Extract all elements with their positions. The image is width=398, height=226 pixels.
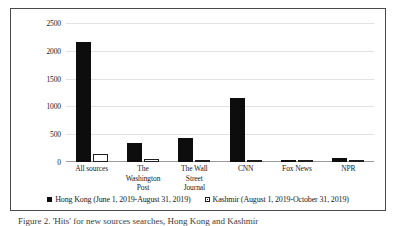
x-axis-label: NPR (323, 164, 374, 193)
bar-hong-kong[interactable] (127, 143, 142, 162)
bar-group (323, 23, 374, 162)
bar-hong-kong[interactable] (332, 158, 347, 162)
bars-layer (66, 23, 374, 162)
x-axis-label-line: Washington (117, 174, 168, 184)
y-axis-tick-label: 2500 (46, 19, 61, 28)
bar-kashmir[interactable] (298, 160, 313, 162)
bar-hong-kong[interactable] (281, 160, 296, 162)
y-axis-tick-label: 1500 (46, 74, 61, 83)
figure-caption: Figure 2. 'Hits' for new sources searche… (18, 216, 388, 225)
x-axis-label: CNN (220, 164, 271, 193)
legend-swatch-icon (47, 197, 52, 202)
x-axis-label: All sources (66, 164, 117, 193)
x-axis-label: TheWashingtonPost (117, 164, 168, 193)
x-axis-label-line: Street (169, 174, 220, 184)
legend-label: Kashmir (August 1, 2019-October 31, 2019… (213, 195, 349, 204)
x-axis-label-line: Fox News (271, 164, 322, 174)
x-axis-label-line: Journal (169, 183, 220, 193)
figure-frame: Number of 'hits' 05001000150020002500 Al… (10, 8, 386, 211)
chart-legend: Hong Kong (June 1, 2019-August 31, 2019)… (11, 195, 385, 204)
legend-swatch-icon (205, 197, 210, 202)
x-axis-label-line: NPR (323, 164, 374, 174)
x-axis-category-labels: All sourcesTheWashingtonPostThe WallStre… (66, 164, 374, 193)
bar-hong-kong[interactable] (230, 98, 245, 162)
bar-kashmir[interactable] (247, 160, 262, 163)
y-axis-tick-label: 500 (50, 130, 61, 139)
bar-hong-kong[interactable] (76, 42, 91, 162)
legend-item-kashmir[interactable]: Kashmir (August 1, 2019-October 31, 2019… (205, 195, 349, 204)
x-axis-label-line: CNN (220, 164, 271, 174)
legend-label: Hong Kong (June 1, 2019-August 31, 2019) (55, 195, 190, 204)
x-axis-label-line: The Wall (169, 164, 220, 174)
bar-group (117, 23, 168, 162)
y-axis-title: Number of 'hits' (25, 0, 34, 35)
x-axis-label: Fox News (271, 164, 322, 193)
y-axis-tick-label: 2000 (46, 46, 61, 55)
y-axis-tick-label: 0 (57, 158, 61, 167)
bar-group (169, 23, 220, 162)
bar-kashmir[interactable] (144, 159, 159, 162)
x-axis-label: The WallStreetJournal (169, 164, 220, 193)
bar-kashmir[interactable] (195, 160, 210, 162)
bar-group (66, 23, 117, 162)
bar-kashmir[interactable] (349, 160, 364, 162)
x-axis-label-line: The (117, 164, 168, 174)
plot-area: 05001000150020002500 (66, 23, 374, 162)
bar-group (271, 23, 322, 162)
bar-kashmir[interactable] (93, 154, 108, 162)
legend-item-hong-kong[interactable]: Hong Kong (June 1, 2019-August 31, 2019) (47, 195, 190, 204)
x-axis-label-line: Post (117, 183, 168, 193)
bar-hong-kong[interactable] (178, 138, 193, 162)
x-axis-label-line: All sources (66, 164, 117, 174)
y-axis-tick-label: 1000 (46, 102, 61, 111)
bar-group (220, 23, 271, 162)
